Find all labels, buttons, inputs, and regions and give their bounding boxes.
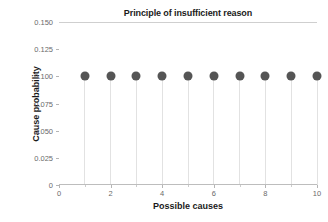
x-tick-label: 4 [160, 189, 164, 198]
x-tick-label: 2 [109, 189, 113, 198]
x-tick-mark [162, 185, 163, 188]
data-point[interactable] [106, 72, 115, 81]
x-tick-mark-minor [240, 185, 241, 187]
y-tick-label: 0 [7, 181, 53, 190]
data-point[interactable] [184, 72, 193, 81]
stem-line [188, 76, 189, 185]
gridline-top [59, 22, 317, 23]
plot-area [59, 22, 317, 185]
x-tick-label: 8 [263, 189, 267, 198]
x-tick-mark [265, 185, 266, 188]
data-point[interactable] [235, 72, 244, 81]
data-point[interactable] [261, 72, 270, 81]
stem-line [213, 76, 214, 185]
stem-line [110, 76, 111, 185]
y-tick-label: 0.075 [7, 99, 53, 108]
x-tick-mark-minor [85, 185, 86, 187]
y-tick-label: 0.125 [7, 45, 53, 54]
data-point[interactable] [132, 72, 141, 81]
x-tick-mark [111, 185, 112, 188]
x-tick-label: 0 [57, 189, 61, 198]
stem-line [84, 76, 85, 185]
y-tick-label: 0.100 [7, 72, 53, 81]
stem-line [162, 76, 163, 185]
data-point[interactable] [209, 72, 218, 81]
x-axis-label: Possible causes [59, 201, 317, 211]
x-tick-label: 10 [313, 189, 321, 198]
stem-line [239, 76, 240, 185]
y-tick-label: 0.050 [7, 126, 53, 135]
x-tick-mark [214, 185, 215, 188]
y-tick-label: 0.150 [7, 18, 53, 27]
data-point[interactable] [313, 72, 322, 81]
x-axis-ticks: 0246810 [59, 185, 317, 201]
stem-line [136, 76, 137, 185]
x-tick-label: 6 [212, 189, 216, 198]
data-point[interactable] [80, 72, 89, 81]
stem-line [317, 76, 318, 185]
x-tick-mark-minor [136, 185, 137, 187]
data-point[interactable] [158, 72, 167, 81]
x-tick-mark-minor [291, 185, 292, 187]
x-tick-mark [59, 185, 60, 188]
stem-line [291, 76, 292, 185]
data-point[interactable] [287, 72, 296, 81]
x-tick-mark [317, 185, 318, 188]
x-tick-mark-minor [188, 185, 189, 187]
chart-figure: Principle of insufficient reason Cause p… [0, 0, 328, 222]
stem-line [265, 76, 266, 185]
y-tick-label: 0.025 [7, 153, 53, 162]
